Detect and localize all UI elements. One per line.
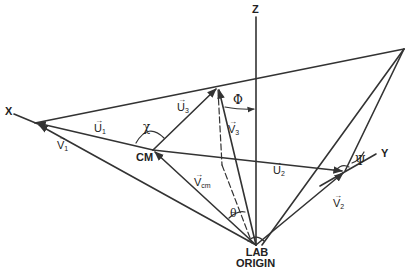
psi-angle-label: Ψ [355,155,366,167]
phi-angle-label: Φ [233,94,243,106]
y-axis-label: Y [381,148,388,159]
v3-sub: 3 [235,129,239,136]
vector-arrow-icon: → [95,117,103,125]
vcm-vector [155,152,256,245]
projection-dashed-line-2 [222,165,252,243]
lab-origin-label: LAB ORIGIN [240,247,274,269]
v1-label: →V1 [57,140,68,152]
u2-vector [153,150,342,171]
chi-angle-label: χ [143,121,150,133]
vector-arrow-icon: → [58,134,66,142]
u1-sub: 1 [102,128,106,135]
phi-angle-arc [225,107,254,109]
vector-arrow-icon: → [178,96,186,104]
u2-label: →U2 [273,165,285,177]
u3-sub: 3 [185,107,189,114]
apex-to-origin-line-2 [345,49,404,171]
x-axis-label: X [5,106,12,117]
v2-vector [256,173,343,245]
vector-arrow-icon: → [229,118,237,126]
vector-arrow-icon: → [274,159,282,167]
z-axis-label: Z [252,4,259,15]
vcm-sub: cm [201,182,210,189]
v2-sub: 2 [340,203,344,210]
u3-label: →U3 [177,102,189,114]
v1-sub: 1 [64,145,68,152]
v3-label: →V3 [228,124,239,136]
v3-vector [219,90,256,245]
vcm-label: →Vcm [194,177,211,189]
vector-arrow-icon: → [334,192,342,200]
v2-label: →V2 [333,198,344,210]
theta-angle-label: θ [230,208,237,219]
lab-origin-line2: ORIGIN [236,258,274,269]
u2-sub: 2 [281,170,285,177]
vector-arrow-icon: → [195,171,203,179]
v1-vector [39,125,256,245]
cm-label: CM [136,152,153,163]
u1-label: →U1 [94,123,106,135]
